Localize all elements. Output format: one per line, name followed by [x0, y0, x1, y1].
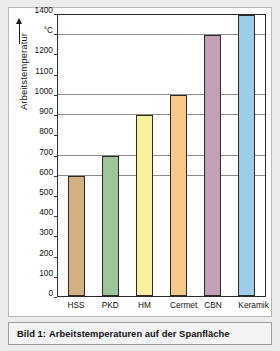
figure-caption: Bild 1:Arbeitstemperaturen auf der Spanf… — [8, 322, 272, 345]
y-axis-tick: 800 — [39, 126, 53, 136]
y-axis-tick: 200 — [39, 248, 53, 258]
plot-area — [57, 14, 266, 297]
y-axis-tick: 1000 — [35, 86, 53, 96]
bar-hss — [68, 176, 85, 296]
y-axis-tick: 400 — [39, 207, 53, 217]
figure-container: Arbeitstemperatur 1400°C1200110010009008… — [0, 0, 280, 351]
bar-hm — [136, 115, 153, 296]
bar-keramik — [238, 15, 255, 296]
y-axis-tick: 1100 — [35, 66, 53, 76]
caption-text: Arbeitstemperaturen auf der Spanfläche — [49, 328, 230, 339]
y-axis-tick: 600 — [39, 167, 53, 177]
bar-pkd — [102, 156, 119, 297]
plot-wrapper: HSSPKDHMCermetCBNKeramik — [57, 14, 266, 312]
y-axis-tick: 1400 — [35, 5, 53, 15]
bar-cbn — [204, 35, 221, 296]
x-axis-category-labels: HSSPKDHMCermetCBNKeramik — [57, 297, 266, 312]
y-axis-tick: 900 — [39, 106, 53, 116]
caption-label: Bild 1: — [17, 328, 46, 339]
x-axis-label-keramik: Keramik — [238, 300, 255, 310]
bar-cermet — [170, 95, 187, 296]
chart-panel: Arbeitstemperatur 1400°C1200110010009008… — [8, 7, 272, 317]
y-axis-tick: 300 — [39, 227, 53, 237]
y-axis-tick: 100 — [39, 268, 53, 278]
x-axis-label-cbn: CBN — [204, 300, 221, 310]
bar-series — [58, 15, 265, 296]
y-axis-tick-labels: 1400°C1200110010009008007006005004003002… — [27, 15, 57, 298]
y-axis-tick: 500 — [39, 187, 53, 197]
x-axis-label-cermet: Cermet — [170, 300, 187, 310]
x-axis-label-hm: HM — [136, 300, 153, 310]
y-axis-tick: °C — [44, 25, 53, 35]
x-axis-label-hss: HSS — [68, 300, 85, 310]
y-axis-tick: 0 — [48, 288, 53, 298]
y-axis-tick: 1200 — [35, 45, 53, 55]
y-axis-tick: 700 — [39, 147, 53, 157]
x-axis-label-pkd: PKD — [102, 300, 119, 310]
y-axis-title-column: Arbeitstemperatur — [13, 14, 27, 312]
